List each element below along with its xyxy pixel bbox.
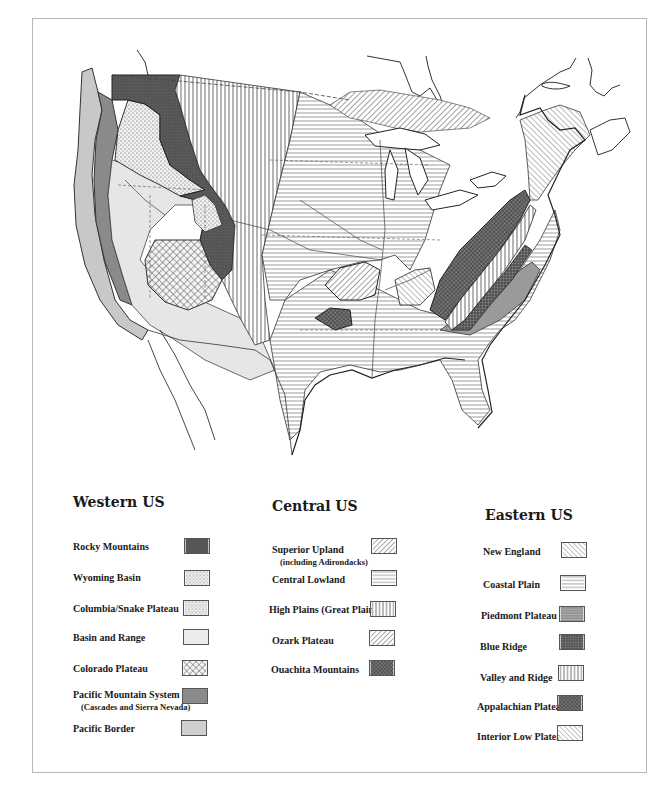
sublabel-cascades-sierra-nevada: (Cascades and Sierra Nevada) (73, 701, 190, 713)
swatch-ozark-plateau (369, 630, 395, 646)
swatch-basin-and-range (183, 629, 209, 645)
swatch-ouachita-mountains (369, 660, 395, 676)
swatch-coastal-plain (560, 575, 586, 591)
swatch-appalachian-plateau (557, 695, 583, 711)
legend-title-western: Western US (73, 494, 165, 510)
label-superior-upland: Superior Upland (272, 544, 344, 555)
swatch-new-england (561, 542, 587, 558)
swatch-central-lowland (371, 570, 397, 586)
swatch-valley-and-ridge (558, 665, 584, 681)
swatch-piedmont-plateau (559, 606, 585, 622)
swatch-superior-upland (371, 538, 397, 554)
region-interior-low-plateau (395, 268, 435, 305)
swatch-colorado-plateau (182, 660, 208, 676)
legend-title-central: Central US (272, 498, 358, 514)
sublabel-including-adirondacks: (including Adirondacks) (272, 556, 368, 568)
legend-title-eastern: Eastern US (485, 507, 573, 523)
swatch-interior-low-plateau (557, 725, 583, 741)
swatch-pacific-mountain-system (182, 688, 208, 704)
region-new-england (520, 105, 590, 200)
swatch-high-plains (370, 601, 396, 617)
swatch-blue-ridge (559, 634, 585, 650)
physiographic-map (0, 0, 668, 480)
swatch-pacific-border (181, 720, 207, 736)
label-pacific-mountain-system: Pacific Mountain System (73, 689, 180, 700)
swatch-rocky-mountains (184, 538, 210, 554)
swatch-columbia-snake-plateau (183, 600, 209, 616)
swatch-wyoming-basin (184, 570, 210, 586)
baja-outline (148, 340, 195, 450)
